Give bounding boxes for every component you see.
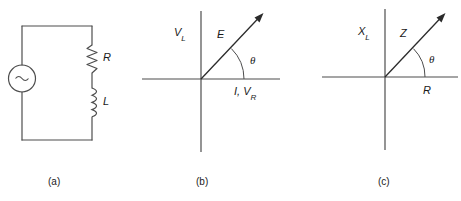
impedance-vector-c (385, 13, 446, 77)
resistor-label: R (103, 52, 111, 63)
axis-label-xl-sub: L (365, 33, 369, 42)
inductor-label: L (103, 96, 109, 107)
vector-label-e: E (217, 29, 224, 40)
circuit-panel-a (22, 26, 92, 140)
angle-arc-c (414, 49, 426, 77)
resistor-zigzag (87, 45, 97, 73)
ac-source-symbol (9, 65, 36, 92)
inductor-symbol (92, 88, 97, 117)
axis-label-vl: VL (174, 27, 186, 41)
angle-arc-b (231, 49, 244, 79)
axis-label-i-vr: I, VR (234, 86, 256, 100)
caption-c: (c) (378, 177, 390, 187)
axis-label-i-vr-sub: R (251, 93, 257, 102)
axis-label-xl: XL (358, 26, 370, 40)
axis-label-i-vr-main: I, V (234, 85, 251, 97)
impedance-panel-c (322, 9, 458, 150)
vector-label-z: Z (400, 28, 407, 39)
phasor-vector-b (201, 13, 264, 79)
angle-label-theta-c: θ (429, 54, 434, 65)
vector-line-e (201, 17, 260, 80)
figure-rl-circuit-phasor: R L VL E θ I, VR XL Z θ R (a) (b) (c) (0, 0, 461, 201)
axis-label-vl-sub: L (181, 34, 185, 43)
resistor-symbol (87, 45, 97, 73)
inductor-coils (92, 88, 97, 117)
phasor-panel-b (142, 11, 280, 152)
figure-vector-graphics (0, 0, 461, 201)
axis-label-r: R (423, 85, 431, 96)
caption-b: (b) (196, 177, 208, 187)
vector-line-z (385, 17, 442, 78)
angle-label-theta-b: θ (250, 55, 255, 66)
ac-source-sine (16, 77, 29, 81)
caption-a: (a) (48, 177, 60, 187)
